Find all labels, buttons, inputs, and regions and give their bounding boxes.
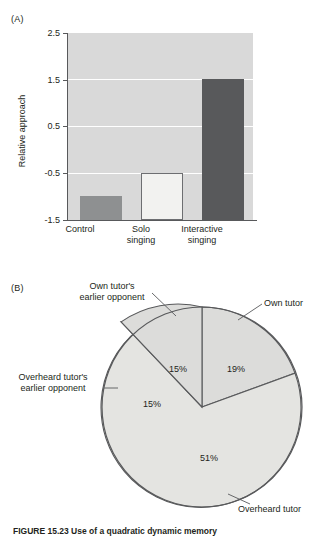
bar-interactive-singing: [202, 79, 244, 220]
bar-control: [80, 196, 122, 220]
figure-container: (A) Relative approach 2.5 1.5 0.5 -0.5 -…: [0, 0, 317, 536]
x-axis-line: [67, 220, 257, 221]
y-tick-mark-neg-1-5: [63, 220, 68, 221]
pie-label-overheard-tutors-earlier-opponent: Overheard tutor's earlier opponent: [0, 372, 106, 394]
x-tick-label-control: Control: [47, 224, 113, 235]
x-tick-label-interactive-singing-line-2: singing: [169, 235, 235, 246]
x-tick-label-interactive-singing-line-1: Interactive: [169, 224, 235, 235]
y-tick-mark-0-5: [63, 126, 68, 127]
y-tick-label-2-5: 2.5: [26, 28, 60, 38]
pie-label-overheard-tutors-earlier-opponent-line-2: earlier opponent: [0, 383, 106, 394]
y-axis-line: [67, 33, 68, 221]
y-tick-mark-2-5: [63, 33, 68, 34]
panel-b-pie-chart: (B) 19% 51% 15% 15% Own tutor's earlier: [0, 268, 317, 536]
x-tick-label-solo-singing-line-2: singing: [108, 235, 174, 246]
x-tick-label-solo-singing-line-1: Solo: [108, 224, 174, 235]
pie-percent-overheard-tutor: 51%: [200, 453, 218, 463]
plot-area: [68, 33, 253, 220]
y-tick-mark-neg-0-5: [63, 173, 68, 174]
x-tick-label-control-line-1: Control: [47, 224, 113, 235]
pie-percent-overheard-tutors-earlier-opponent: 15%: [143, 399, 161, 409]
y-tick-label-0-5: 0.5: [26, 121, 60, 131]
y-tick-label-1-5: 1.5: [26, 75, 60, 85]
pie-label-overheard-tutor: Overheard tutor: [238, 504, 301, 515]
pie-label-own-tutor: Own tutor: [264, 298, 303, 309]
panel-a-bar-chart: (A) Relative approach 2.5 1.5 0.5 -0.5 -…: [0, 0, 317, 268]
bar-solo-singing: [141, 173, 183, 220]
pie-label-own-tutors-earlier-opponent-line-1: Own tutor's: [57, 281, 167, 292]
x-tick-label-solo-singing: Solo singing: [108, 224, 174, 246]
callout-line-own-tutor: [238, 304, 262, 320]
pie-label-own-tutors-earlier-opponent-line-2: earlier opponent: [57, 292, 167, 303]
pie-label-own-tutors-earlier-opponent: Own tutor's earlier opponent: [57, 281, 167, 303]
pie-percent-own-tutor: 19%: [227, 364, 245, 374]
figure-caption: FIGURE 15.23 Use of a quadratic dynamic …: [13, 526, 313, 536]
pie-percent-own-tutors-earlier-opponent: 15%: [169, 364, 187, 374]
y-tick-mark-1-5: [63, 80, 68, 81]
y-tick-label-neg-0-5: -0.5: [26, 168, 60, 178]
pie-label-overheard-tutors-earlier-opponent-line-1: Overheard tutor's: [0, 372, 106, 383]
panel-a-label: (A): [11, 14, 24, 24]
x-tick-label-interactive-singing: Interactive singing: [169, 224, 235, 246]
